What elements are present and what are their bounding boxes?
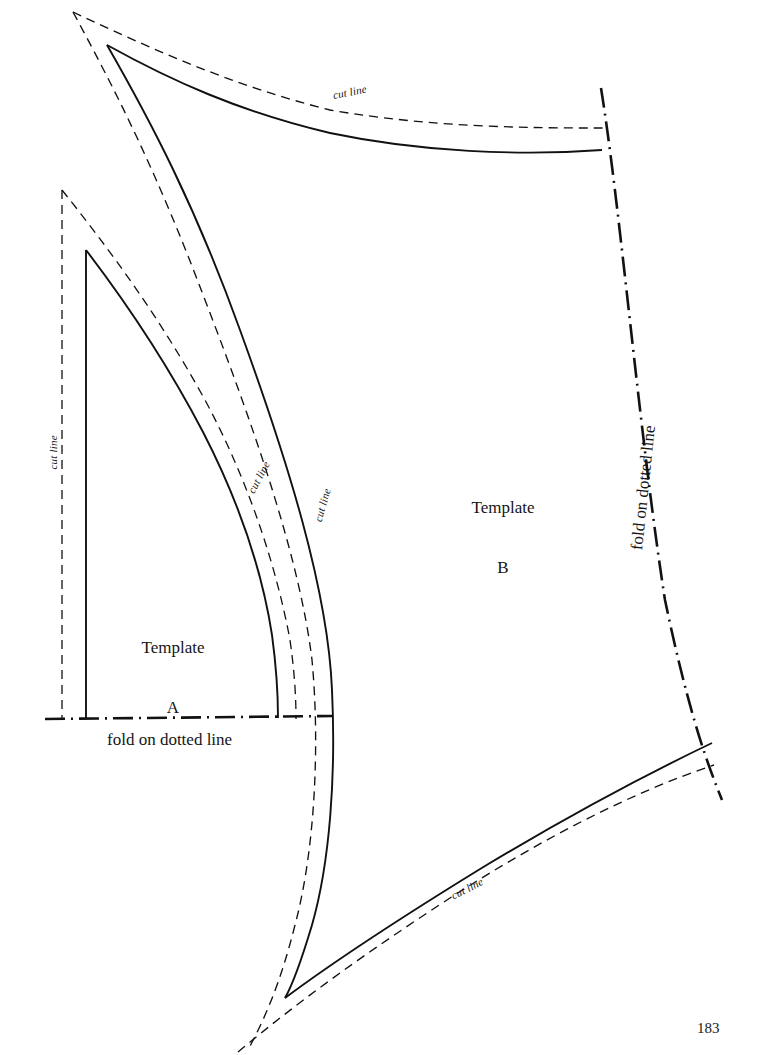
template-b-label-line1: Template — [448, 498, 558, 518]
template-b-label-line2: B — [448, 558, 558, 578]
template-b-label: Template B — [448, 458, 558, 618]
pattern-page: cut line cut line cut line cut line cut … — [0, 0, 758, 1055]
template-a-label-line2: A — [118, 698, 228, 718]
template-a-label-line1: Template — [118, 638, 228, 658]
cut-line-label-left-vertical: cut line — [47, 435, 60, 469]
page-number: 183 — [697, 1020, 720, 1038]
fold-on-dotted-line-label-bottom: fold on dotted line — [107, 730, 232, 750]
